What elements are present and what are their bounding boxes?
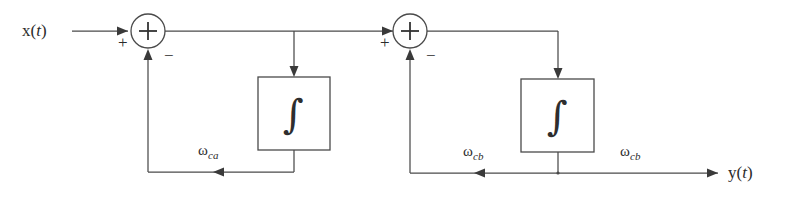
block-diagram: x(t) y(t) + − + − ∫ ∫ ωca ωcb ωcb (0, 0, 790, 200)
output-signal-label: y(t) (728, 164, 753, 181)
gain-label-omega-cb-inner: ωcb (463, 144, 484, 162)
sum1-input-sign: + (118, 34, 128, 51)
wire-sum2-to-integrator2 (427, 31, 563, 79)
wire-output (558, 169, 718, 178)
sum2-feedback-sign: − (426, 47, 436, 64)
gain-label-omega-cb-outer: ωcb (620, 144, 641, 162)
gain-label-omega-ca: ωca (198, 143, 219, 161)
wire-branch-to-integrator1 (290, 31, 299, 77)
wire-integrator2-out (556, 152, 559, 175)
sum1-feedback-sign: − (164, 47, 174, 64)
integrator-1-symbol: ∫ (283, 94, 304, 134)
wire-sum1-to-sum2 (165, 27, 393, 36)
sum-junction-1 (131, 14, 165, 48)
input-signal-label: x(t) (22, 22, 47, 39)
integrator-2-symbol: ∫ (547, 96, 568, 136)
diagram-canvas (0, 0, 790, 200)
sum2-input-sign: + (380, 34, 390, 51)
sum-junction-2 (393, 14, 427, 48)
